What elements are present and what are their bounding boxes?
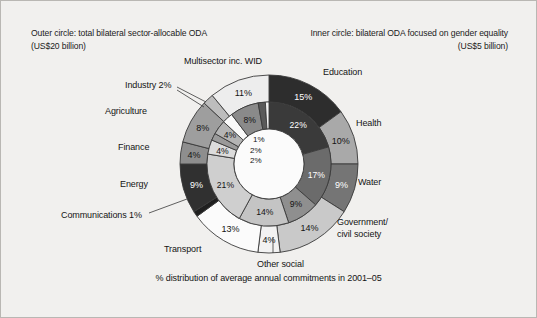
inner-small-callout-1: 2%: [250, 146, 262, 155]
slice-value-outer-agriculture: 8%: [196, 123, 209, 133]
label-health: Health: [356, 118, 381, 128]
label-government-line1: Government/: [337, 217, 388, 227]
nested-donut-chart: 15%10%9%14%4%13%9%4%8%11%22%17%9%14%21%4…: [1, 1, 537, 318]
slice-value-outer-multisector-inc-wid: 11%: [235, 88, 252, 98]
inner-small-callout-2: 2%: [250, 156, 262, 165]
slice-value-inner-government-civil-society: 14%: [256, 207, 274, 217]
label-agriculture: Agriculture: [105, 106, 147, 116]
label-government: Government/ civil society: [337, 217, 388, 240]
slice-value-outer-finance: 4%: [188, 150, 201, 160]
donut-svg: 15%10%9%14%4%13%9%4%8%11%22%17%9%14%21%4…: [1, 1, 537, 318]
slice-value-outer-water: 9%: [335, 180, 348, 190]
slice-value-outer-government-civil-society: 14%: [300, 223, 318, 233]
label-government-line2: civil society: [337, 229, 381, 239]
slice-value-outer-other-social: 4%: [262, 235, 275, 245]
chart-footer-caption: % distribution of average annual commitm…: [1, 273, 536, 283]
slice-value-outer-health: 10%: [332, 136, 350, 146]
leader-line-industry: [177, 87, 206, 102]
label-finance: Finance: [118, 142, 149, 152]
label-communications: Communications 1%: [61, 210, 142, 220]
slice-value-inner-agriculture: 8%: [243, 115, 256, 125]
label-education: Education: [323, 67, 362, 77]
label-industry: Industry 2%: [125, 80, 171, 90]
label-multisector: Multisector inc. WID: [184, 56, 262, 66]
leader-line-communications: [149, 199, 187, 213]
slice-value-inner-water: 9%: [290, 199, 303, 209]
label-transport: Transport: [164, 244, 201, 254]
inner-small-callout-0: 1%: [253, 135, 265, 144]
donut-hole: [234, 129, 304, 199]
slice-value-inner-education: 22%: [290, 120, 308, 130]
slice-value-inner-health: 17%: [308, 170, 326, 180]
label-energy: Energy: [120, 179, 148, 189]
figure-container: Outer circle: total bilateral sector-all…: [0, 0, 537, 318]
slice-value-outer-education: 15%: [294, 92, 312, 102]
slice-value-inner-transport: 4%: [216, 146, 229, 156]
slice-value-inner-other-social: 21%: [217, 180, 235, 190]
label-other-social: Other social: [257, 259, 304, 269]
slice-value-outer-energy: 9%: [190, 180, 203, 190]
slice-value-outer-transport: 13%: [222, 224, 240, 234]
label-water: Water: [358, 177, 381, 187]
